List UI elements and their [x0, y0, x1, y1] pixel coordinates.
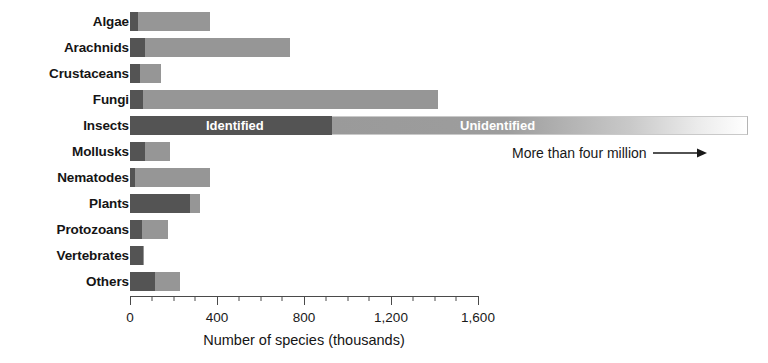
annotation-text: More than four million	[512, 145, 647, 161]
table-row: Protozoans	[0, 220, 768, 246]
bar-segment-unidentified	[143, 90, 438, 109]
x-tick-label-800: 800	[293, 310, 316, 325]
bar-arachnids	[130, 38, 290, 57]
table-row: Insects Identified Unidentified	[0, 116, 768, 142]
bar-segment-unidentified	[143, 246, 144, 265]
bar-others	[130, 272, 180, 291]
table-row: Vertebrates	[0, 246, 768, 272]
legend-label-unidentified: Unidentified	[460, 116, 535, 135]
x-tick-label-400: 400	[206, 310, 229, 325]
category-label-protozoans: Protozoans	[0, 220, 129, 239]
category-label-vertebrates: Vertebrates	[0, 246, 129, 265]
bar-segment-unidentified	[138, 12, 210, 31]
bar-segment-identified	[130, 272, 155, 291]
table-row: Algae	[0, 12, 768, 38]
bar-segment-identified	[130, 194, 190, 213]
category-label-algae: Algae	[0, 12, 129, 31]
category-label-arachnids: Arachnids	[0, 38, 129, 57]
bar-segment-unidentified	[155, 272, 180, 291]
bar-segment-identified	[130, 12, 138, 31]
bar-segment-unidentified	[145, 38, 290, 57]
arrow-right-icon	[653, 145, 707, 163]
category-label-crustaceans: Crustaceans	[0, 64, 129, 83]
bar-segment-unidentified	[332, 116, 748, 135]
bar-segment-identified	[130, 220, 142, 239]
bar-segment-unidentified	[140, 64, 161, 83]
table-row: Nematodes	[0, 168, 768, 194]
bar-protozoans	[130, 220, 168, 239]
category-label-fungi: Fungi	[0, 90, 129, 109]
category-label-mollusks: Mollusks	[0, 142, 129, 161]
axis-ticks	[0, 296, 768, 310]
bar-fungi	[130, 90, 438, 109]
x-tick-label-1600: 1,600	[461, 310, 495, 325]
table-row: Fungi	[0, 90, 768, 116]
table-row: Others	[0, 272, 768, 298]
bar-vertebrates	[130, 246, 144, 265]
bar-algae	[130, 12, 210, 31]
bar-segment-unidentified	[145, 142, 170, 161]
legend-label-identified: Identified	[206, 116, 264, 135]
x-axis: 0 400 800 1,200 1,600 Number of species …	[0, 296, 768, 363]
category-label-insects: Insects	[0, 116, 129, 135]
bar-nematodes	[130, 168, 210, 187]
table-row: Arachnids	[0, 38, 768, 64]
bar-segment-identified	[130, 246, 143, 265]
category-label-plants: Plants	[0, 194, 129, 213]
table-row: Crustaceans	[0, 64, 768, 90]
bar-insects: Identified Unidentified	[130, 116, 748, 135]
x-tick-label-1200: 1,200	[374, 310, 408, 325]
bar-crustaceans	[130, 64, 161, 83]
x-axis-title: Number of species (thousands)	[203, 332, 405, 348]
bar-plants	[130, 194, 200, 213]
bar-segment-identified	[130, 38, 145, 57]
bar-segment-unidentified	[190, 194, 200, 213]
table-row: Plants	[0, 194, 768, 220]
bar-segment-unidentified	[135, 168, 210, 187]
species-bar-chart: Algae Arachnids Crustaceans Fungi	[0, 0, 768, 363]
bar-segment-unidentified	[142, 220, 168, 239]
bar-mollusks	[130, 142, 170, 161]
bar-segment-identified	[130, 142, 145, 161]
bar-segment-identified	[130, 90, 143, 109]
category-label-nematodes: Nematodes	[0, 168, 129, 187]
x-tick-label-0: 0	[126, 310, 134, 325]
category-label-others: Others	[0, 272, 129, 291]
bar-segment-identified	[130, 64, 140, 83]
annotation-more-than-four-million: More than four million	[512, 144, 707, 163]
